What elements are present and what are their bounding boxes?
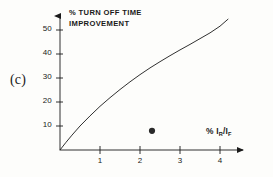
y-tick-label: 50 — [34, 25, 52, 34]
y-tick-label: 30 — [34, 73, 52, 82]
data-curve — [60, 19, 228, 150]
x-tick-label: 3 — [173, 157, 187, 166]
y-axis-title: % TURN OFF TIME IMPROVEMENT — [69, 7, 142, 29]
y-axis-title-line2: IMPROVEMENT — [69, 19, 129, 28]
x-axis-title-sub-f: F — [228, 131, 232, 137]
y-tick-label: 20 — [34, 97, 52, 106]
y-tick-label: 10 — [34, 121, 52, 130]
y-axis-ticks — [56, 30, 63, 126]
x-axis-title-main: % I — [206, 126, 219, 136]
x-axis-title-sub-r: R — [219, 131, 223, 137]
x-tick-label: 2 — [133, 157, 147, 166]
figure-panel: (c) % TURN OFF TIME IMPROVEMENT % IR/IF … — [0, 0, 273, 177]
y-axis-title-line1: % TURN OFF TIME — [69, 8, 142, 17]
x-tick-label: 4 — [213, 157, 227, 166]
data-point-marker — [149, 128, 155, 134]
x-tick-label: 1 — [93, 157, 107, 166]
panel-label: (c) — [10, 72, 26, 88]
y-tick-label: 40 — [34, 49, 52, 58]
x-axis-title: % IR/IF — [206, 127, 232, 136]
